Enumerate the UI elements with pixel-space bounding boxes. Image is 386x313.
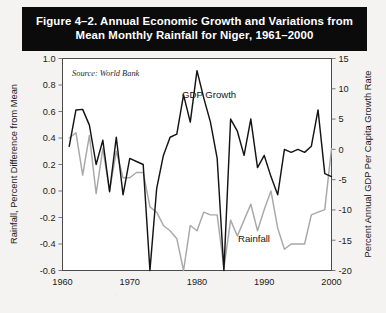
right-axis-ticks (332, 59, 336, 271)
left-tick-label: 0.4 (43, 133, 56, 143)
x-tick-label: 1980 (187, 277, 207, 287)
right-axis-title: Percent Annual GDP Per Capita Growth Rat… (363, 71, 373, 258)
left-axis-tick-labels: -0.6-0.4-0.20.00.20.40.60.81.0 (40, 54, 56, 276)
left-tick-label: 0.6 (43, 107, 56, 117)
left-tick-label: 1.0 (43, 54, 56, 64)
left-axis-title: Rainfall, Percent Difference from Mean (9, 84, 19, 244)
left-tick-label: 0.8 (43, 80, 56, 90)
right-tick-label: -20 (339, 266, 352, 276)
left-tick-label: -0.4 (40, 239, 56, 249)
plot-wrapper: -0.6-0.4-0.20.00.20.40.60.81.0 -20-15-10… (0, 0, 386, 313)
right-tick-label: 15 (339, 54, 349, 64)
left-tick-label: -0.2 (40, 213, 56, 223)
right-tick-label: -5 (339, 175, 347, 185)
x-tick-label: 1960 (52, 277, 72, 287)
x-tick-label: 1970 (120, 277, 140, 287)
right-tick-label: -10 (339, 205, 352, 215)
left-tick-label: 0.0 (43, 186, 56, 196)
left-tick-label: 0.2 (43, 160, 56, 170)
right-axis-tick-labels: -20-15-10-5051015 (339, 54, 352, 276)
x-tick-label: 1990 (254, 277, 274, 287)
gdp-growth-label: GDP Growth (182, 89, 236, 100)
left-tick-label: -0.6 (40, 266, 56, 276)
right-tick-label: 0 (339, 145, 344, 155)
x-tick-label: 2000 (321, 277, 341, 287)
left-axis-ticks (59, 59, 63, 271)
x-axis-tick-labels: 19601970198019902000 (52, 277, 341, 287)
right-tick-label: 5 (339, 114, 344, 124)
right-tick-label: 10 (339, 84, 349, 94)
source-note: Source: World Bank (72, 69, 140, 78)
right-tick-label: -15 (339, 236, 352, 246)
rainfall-label: Rainfall (238, 233, 270, 244)
chart-svg: -0.6-0.4-0.20.00.20.40.60.81.0 -20-15-10… (0, 0, 386, 313)
figure-container: Figure 4–2. Annual Economic Growth and V… (0, 0, 386, 313)
